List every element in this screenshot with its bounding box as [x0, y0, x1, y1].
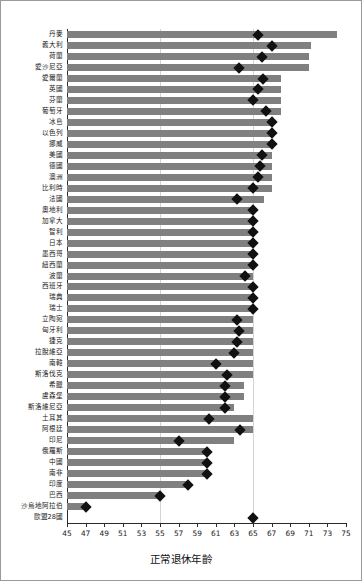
bar [67, 415, 253, 422]
x-axis-tick-label: 53 [137, 529, 146, 538]
category-axis-labels: 丹麥義大利荷蘭愛沙尼亞愛爾蘭英國芬蘭葡萄牙冰島以色列挪威美國德國澳洲比利時法國奧… [1, 29, 63, 523]
category-label: 斯洛伐克 [35, 369, 63, 380]
category-label: 盧森堡 [42, 391, 63, 402]
chart-row [67, 194, 346, 205]
chart-row [67, 106, 346, 117]
bar [67, 185, 272, 192]
x-axis-tick [141, 523, 142, 527]
chart-row [67, 380, 346, 391]
category-label: 紐西蘭 [42, 260, 63, 271]
chart-row [67, 281, 346, 292]
bar [67, 152, 272, 159]
x-axis-tick-label: 51 [118, 529, 127, 538]
x-axis-tick-label: 75 [341, 529, 350, 538]
category-label: 沙烏地阿拉伯 [21, 501, 63, 512]
chart-row [67, 84, 346, 95]
category-label: 日本 [49, 238, 63, 249]
bar [67, 229, 253, 236]
bar [67, 174, 272, 181]
chart-row [67, 402, 346, 413]
chart-row [67, 249, 346, 260]
x-axis-tick [346, 523, 347, 527]
x-axis-tick-label: 61 [211, 529, 220, 538]
category-label: 南韓 [49, 358, 63, 369]
chart-row [67, 391, 346, 402]
bar [67, 481, 188, 488]
bar [67, 130, 272, 137]
bar [67, 305, 253, 312]
category-label: 俄羅斯 [42, 446, 63, 457]
x-axis-tick [197, 523, 198, 527]
category-label: 中國 [49, 457, 63, 468]
category-label: 墨西哥 [42, 249, 63, 260]
chart-row [67, 490, 346, 501]
chart-row [67, 172, 346, 183]
bar [67, 349, 253, 356]
bar [67, 207, 253, 214]
bar [67, 273, 253, 280]
bar [67, 64, 309, 71]
bar [67, 393, 244, 400]
category-label: 希臘 [49, 380, 63, 391]
chart-row [67, 117, 346, 128]
category-label: 瑞典 [49, 292, 63, 303]
chart-row [67, 303, 346, 314]
chart-row [67, 479, 346, 490]
chart-row [67, 314, 346, 325]
x-axis-tick [253, 523, 254, 527]
category-label: 澳洲 [49, 172, 63, 183]
chart-row [67, 271, 346, 282]
x-axis-tick [327, 523, 328, 527]
chart-row [67, 29, 346, 40]
bar [67, 86, 281, 93]
x-axis-tick [123, 523, 124, 527]
x-axis-tick-label: 59 [192, 529, 201, 538]
x-axis-tick-label: 49 [99, 529, 108, 538]
bar [67, 426, 253, 433]
chart-row [67, 227, 346, 238]
chart-row [67, 95, 346, 106]
bar [67, 262, 253, 269]
category-label: 奧地利 [42, 205, 63, 216]
chart-row [67, 512, 346, 523]
chart-row [67, 358, 346, 369]
chart-row [67, 435, 346, 446]
category-label: 冰島 [49, 117, 63, 128]
category-label: 荷蘭 [49, 51, 63, 62]
bar [67, 448, 207, 455]
bar [67, 31, 337, 38]
chart-row [67, 128, 346, 139]
x-axis-tick-label: 69 [285, 529, 294, 538]
category-label: 挪威 [49, 139, 63, 150]
chart-row [67, 161, 346, 172]
x-axis-tick-label: 65 [248, 529, 257, 538]
chart-row [67, 205, 346, 216]
category-label: 斯洛維尼亞 [28, 402, 63, 413]
x-axis-title: 正常退休年齡 [1, 551, 361, 566]
bar [67, 316, 253, 323]
bar [67, 459, 207, 466]
category-label: 南非 [49, 468, 63, 479]
category-label: 波蘭 [49, 271, 63, 282]
data-point-marker [247, 512, 258, 523]
x-axis-tick-label: 45 [62, 529, 71, 538]
x-axis-tick-label: 57 [174, 529, 183, 538]
category-label: 捷克 [49, 336, 63, 347]
category-label: 丹麥 [49, 29, 63, 40]
category-label: 立陶宛 [42, 314, 63, 325]
category-label: 印尼 [49, 435, 63, 446]
x-axis-tick-label: 71 [304, 529, 313, 538]
chart-row [67, 150, 346, 161]
bar [67, 437, 234, 444]
x-axis-tick [272, 523, 273, 527]
category-label: 瑞士 [49, 303, 63, 314]
bar [67, 251, 253, 258]
x-axis-tick [179, 523, 180, 527]
chart-row [67, 62, 346, 73]
chart-row [67, 457, 346, 468]
bar [67, 240, 253, 247]
category-label: 拉脫維亞 [35, 347, 63, 358]
category-label: 巴西 [49, 490, 63, 501]
x-axis-tick-label: 55 [155, 529, 164, 538]
chart-row [67, 216, 346, 227]
